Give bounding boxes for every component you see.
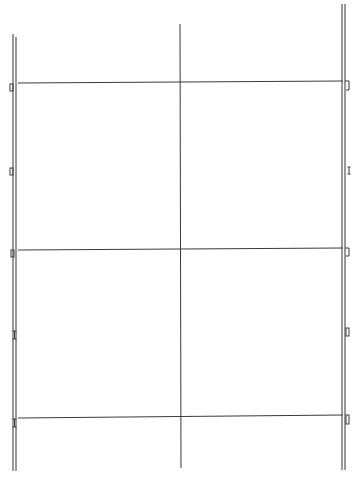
frame-grid-diagram — [0, 0, 358, 480]
canvas-background — [0, 0, 358, 480]
